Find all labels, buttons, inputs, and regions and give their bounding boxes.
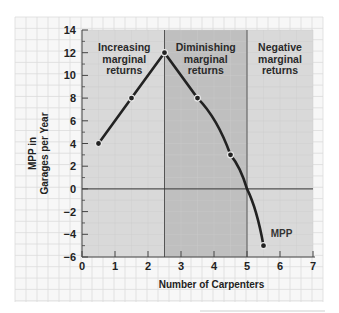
region-label: returns <box>262 64 298 76</box>
data-point <box>195 95 201 101</box>
y-tick-label: 8 <box>70 92 76 104</box>
data-point <box>162 50 168 56</box>
data-point <box>96 141 102 147</box>
x-tick-label: 6 <box>277 260 283 272</box>
data-point <box>228 152 234 158</box>
y-tick-label: 2 <box>70 160 76 172</box>
region-label: Increasing <box>98 41 151 53</box>
y-tick-label: −4 <box>63 228 76 240</box>
x-tick-label: 5 <box>244 260 250 272</box>
x-axis-title: Number of Carpenters <box>159 279 265 290</box>
y-tick-label: 10 <box>64 69 76 81</box>
region-label: marginal <box>184 53 228 65</box>
region-label: returns <box>188 64 224 76</box>
series-label-mpp: MPP <box>271 228 293 239</box>
y-tick-label: −2 <box>63 206 76 218</box>
data-point <box>129 95 135 101</box>
y-tick-label: −6 <box>63 251 76 263</box>
y-tick-label: 14 <box>64 24 77 36</box>
x-tick-label: 0 <box>79 260 85 272</box>
x-tick-label: 7 <box>310 260 316 272</box>
y-tick-label: 12 <box>64 47 76 59</box>
x-tick-label: 3 <box>178 260 184 272</box>
region-label: marginal <box>258 53 302 65</box>
x-tick-label: 1 <box>112 260 118 272</box>
region-label: returns <box>106 64 142 76</box>
region-label: marginal <box>102 53 146 65</box>
region-label: Diminishing <box>176 41 236 53</box>
x-tick-label: 2 <box>145 260 151 272</box>
region-label: Negative <box>258 41 302 53</box>
y-tick-label: 0 <box>70 183 76 195</box>
x-tick-label: 4 <box>211 260 218 272</box>
y-tick-label: 4 <box>70 138 77 150</box>
y-tick-label: 6 <box>70 115 76 127</box>
data-point <box>261 243 267 249</box>
y-axis-title-line: MPP in <box>27 137 38 170</box>
y-axis-title-line: Garages per Year <box>39 112 50 194</box>
mpp-chart: −6−4−20246810121401234567 Increasingmarg… <box>0 0 339 313</box>
